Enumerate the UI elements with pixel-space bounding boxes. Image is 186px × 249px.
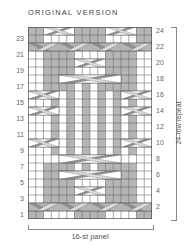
chart-cell: [137, 123, 145, 131]
chart-cell: [82, 195, 90, 203]
chart-cell: [59, 179, 67, 187]
chart-cell: [106, 59, 114, 67]
chart-cell: [36, 75, 44, 83]
chart-cell: [121, 99, 129, 107]
chart-cell: [113, 179, 121, 187]
chart-cell: [137, 59, 145, 67]
chart-cell: [144, 195, 152, 203]
chart-cell: [59, 91, 67, 99]
chart-cell: [144, 123, 152, 131]
chart-cell: [59, 211, 67, 219]
chart-cell: [129, 211, 137, 219]
chart-cell: [36, 155, 44, 163]
chart-cell: [113, 147, 121, 155]
chart-cell: [28, 187, 36, 195]
cable-cross-symbol: [44, 27, 75, 35]
panel-bracket: [28, 225, 154, 230]
chart-cell: [137, 147, 145, 155]
row-number-14: 14: [156, 107, 164, 114]
chart-cell: [44, 155, 52, 163]
chart-cell: [44, 99, 52, 107]
chart-cell: [36, 195, 44, 203]
chart-cell: [82, 107, 90, 115]
chart-cell: [121, 115, 129, 123]
row-number-1: 1: [4, 211, 24, 218]
chart-cell: [67, 163, 75, 171]
chart-cell: [82, 147, 90, 155]
chart-cell: [90, 211, 98, 219]
chart-cell: [67, 179, 75, 187]
chart-cell: [129, 187, 137, 195]
cable-cross-symbol: [121, 139, 152, 147]
chart-cell: [59, 83, 67, 91]
chart-cell: [51, 211, 59, 219]
chart-cell: [67, 187, 75, 195]
row-number-16: 16: [156, 91, 164, 98]
chart-cell: [75, 179, 83, 187]
chart-cell: [51, 115, 59, 123]
chart-cell: [67, 51, 75, 59]
chart-cell: [75, 67, 83, 75]
chart-cell: [36, 83, 44, 91]
chart-cell: [98, 115, 106, 123]
chart-cell: [75, 147, 83, 155]
chart-cell: [98, 163, 106, 171]
chart-cell: [129, 195, 137, 203]
chart-cell: [36, 131, 44, 139]
chart-cell: [121, 131, 129, 139]
chart-cell: [137, 163, 145, 171]
chart-cell: [121, 67, 129, 75]
chart-cell: [75, 139, 83, 147]
chart-cell: [121, 179, 129, 187]
chart-cell: [67, 123, 75, 131]
chart-cell: [59, 147, 67, 155]
chart-cell: [98, 91, 106, 99]
chart-cell: [98, 83, 106, 91]
chart-cell: [36, 123, 44, 131]
chart-cell: [44, 83, 52, 91]
chart-cell: [75, 51, 83, 59]
chart-cell: [113, 83, 121, 91]
chart-cell: [59, 107, 67, 115]
chart-cell: [51, 179, 59, 187]
chart-cell: [82, 115, 90, 123]
chart-cell: [129, 147, 137, 155]
chart-cell: [28, 171, 36, 179]
chart-cell: [44, 211, 52, 219]
cable-cross-symbol: [28, 139, 59, 147]
cable-cross-symbol: [121, 107, 152, 115]
chart-cell: [144, 67, 152, 75]
chart-cell: [59, 35, 67, 43]
chart-cell: [137, 83, 145, 91]
chart-cell: [51, 123, 59, 131]
chart-cell: [36, 187, 44, 195]
chart-cell: [44, 195, 52, 203]
chart-cell: [67, 83, 75, 91]
cable-cross-symbol: [59, 171, 121, 179]
chart-cell: [82, 35, 90, 43]
chart-cell: [137, 187, 145, 195]
chart-cell: [67, 131, 75, 139]
chart-cell: [67, 35, 75, 43]
chart-cell: [113, 99, 121, 107]
chart-cell: [106, 187, 114, 195]
chart-cell: [129, 131, 137, 139]
chart-cell: [51, 75, 59, 83]
chart-cell: [98, 139, 106, 147]
chart-cell: [129, 163, 137, 171]
chart-cell: [82, 131, 90, 139]
chart-cell: [144, 27, 152, 35]
chart-canvas: [28, 27, 152, 219]
row-number-10: 10: [156, 139, 164, 146]
chart-cell: [67, 147, 75, 155]
chart-cell: [67, 67, 75, 75]
chart-cell: [28, 115, 36, 123]
chart-cell: [106, 91, 114, 99]
chart-cell: [144, 35, 152, 43]
chart-cell: [75, 115, 83, 123]
chart-cell: [106, 163, 114, 171]
chart-cell: [44, 171, 52, 179]
chart-cell: [121, 211, 129, 219]
chart-cell: [44, 131, 52, 139]
chart-cell: [90, 107, 98, 115]
